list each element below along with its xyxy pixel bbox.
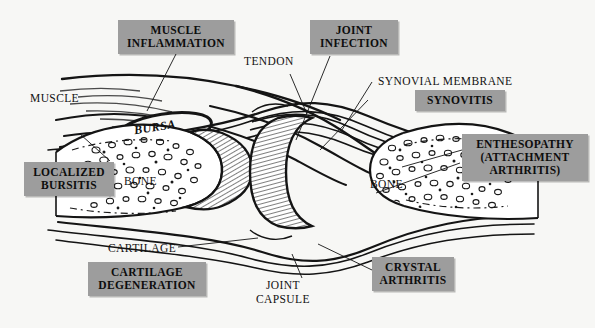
leader-muscle-inflammation [147, 54, 176, 111]
label-crystal-arthritis: CRYSTAL ARTHRITIS [372, 257, 454, 291]
label-bone-right: BONE [370, 178, 403, 191]
diagram-page: MUSCLE TENDON SYNOVIAL MEMBRANE BURSA BO… [0, 0, 595, 328]
label-muscle-inflammation: MUSCLE INFLAMMATION [118, 20, 234, 54]
label-bone-left: BONE [124, 175, 157, 188]
label-joint-infection: JOINT INFECTION [310, 20, 398, 54]
leader-cartilage [178, 238, 258, 247]
label-muscle: MUSCLE [30, 92, 79, 105]
label-tendon: TENDON [244, 55, 294, 68]
label-synovitis: SYNOVITIS [415, 90, 505, 111]
leader-crystal-arthritis [318, 244, 372, 270]
label-joint-capsule: JOINT CAPSULE [256, 278, 310, 306]
label-cartilage: CARTILAGE [108, 242, 176, 255]
label-cartilage-degeneration: CARTILAGE DEGENERATION [88, 262, 206, 296]
label-synovial-membrane: SYNOVIAL MEMBRANE [378, 75, 512, 88]
label-enthesopathy: ENTHESOPATHY (ATTACHMENT ARTHRITIS) [462, 134, 588, 181]
label-localized-bursitis: LOCALIZED BURSITIS [24, 162, 114, 196]
